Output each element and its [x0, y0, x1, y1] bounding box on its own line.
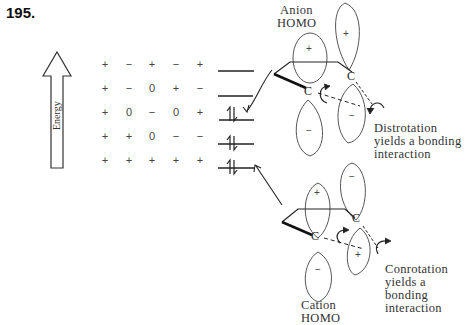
- sign-cell: +: [142, 58, 162, 70]
- cation-correlation-arrow: [256, 166, 282, 205]
- cation-molecule: + − C C − +: [282, 163, 391, 302]
- sign-cell: −: [166, 58, 186, 70]
- sign-cell: 0: [142, 82, 162, 94]
- sign-cell: 0: [166, 106, 186, 118]
- cation-homo-title: Cation HOMO: [301, 299, 340, 325]
- sign-cell: +: [95, 106, 115, 118]
- sign-cell: +: [119, 154, 139, 166]
- svg-text:−: −: [306, 125, 312, 136]
- sign-cell: +: [95, 154, 115, 166]
- svg-text:−: −: [349, 171, 355, 182]
- sign-cell: +: [142, 154, 162, 166]
- sign-cell: +: [190, 58, 210, 70]
- sign-cell: +: [166, 82, 186, 94]
- electron-pair-level-3: [227, 107, 237, 121]
- svg-text:+: +: [343, 28, 349, 39]
- svg-text:C: C: [352, 211, 360, 225]
- sign-cell: 0: [119, 106, 139, 118]
- electron-pair-icons: [227, 107, 237, 174]
- svg-text:−: −: [315, 264, 321, 275]
- svg-text:+: +: [355, 249, 361, 260]
- sign-cell: +: [190, 154, 210, 166]
- svg-text:C: C: [311, 229, 319, 243]
- anion-homo-title: Anion HOMO: [277, 4, 316, 30]
- anion-correlation-arrow: [247, 70, 272, 111]
- energy-arrow-icon: Energy: [43, 52, 71, 168]
- sign-cell: −: [119, 82, 139, 94]
- cation-left-bottom-lobe: [305, 252, 331, 302]
- svg-text:+: +: [314, 187, 320, 198]
- correlation-arrows: [243, 70, 282, 205]
- sign-cell: +: [95, 82, 115, 94]
- svg-text:−: −: [349, 110, 355, 121]
- sign-cell: −: [119, 58, 139, 70]
- sign-cell: +: [119, 130, 139, 142]
- sign-cell: −: [190, 82, 210, 94]
- electron-pair-level-4: [227, 136, 237, 150]
- sign-cell: +: [95, 58, 115, 70]
- svg-text:C: C: [304, 84, 312, 98]
- anion-left-top-lobe: [293, 33, 327, 83]
- energy-axis-label: Energy: [51, 101, 62, 130]
- distrotation-caption: Distrotation yields a bonding interactio…: [374, 122, 461, 161]
- sign-cell: +: [190, 106, 210, 118]
- sign-cell: −: [142, 106, 162, 118]
- sign-cell: −: [166, 130, 186, 142]
- energy-levels: [218, 71, 254, 168]
- svg-text:C: C: [347, 69, 355, 83]
- sign-cell: −: [190, 130, 210, 142]
- sign-cell: 0: [142, 130, 162, 142]
- svg-text:+: +: [306, 43, 312, 54]
- conrotation-caption: Conrotation yields a bonding interaction: [385, 263, 472, 315]
- sign-cell: +: [166, 154, 186, 166]
- electron-pair-level-5: [227, 160, 237, 174]
- sign-cell: +: [95, 130, 115, 142]
